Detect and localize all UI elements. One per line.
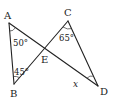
point-label-e: E [41,54,48,65]
angle-label-b: 45° [14,67,29,77]
angle-label-c: 65° [59,33,74,43]
angle-label-a: 50° [13,38,28,48]
point-label-a: A [3,10,12,21]
geometry-diagram: A B C D E 50° 45° 65° x [0,0,116,98]
point-label-c: C [64,7,72,18]
angle-arc-a [10,28,16,31]
segment-cd [68,21,98,86]
point-label-b: B [10,88,17,98]
angle-arc-c [63,27,72,29]
angle-label-x: x [73,79,78,89]
point-label-d: D [100,86,108,97]
angle-arc-d [87,76,93,78]
